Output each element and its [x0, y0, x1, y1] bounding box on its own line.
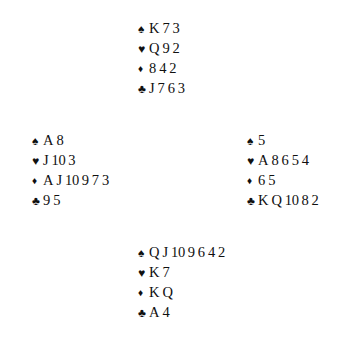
card-rank: 10 [285, 192, 299, 208]
club-icon: ♣ [247, 191, 258, 211]
card-rank: 5 [53, 192, 61, 208]
card-list-heart: J103 [43, 150, 76, 170]
spade-icon: ♠ [138, 19, 149, 39]
card-rank: 9 [82, 172, 90, 188]
card-rank: 7 [92, 172, 100, 188]
diamond-icon: ♦ [138, 283, 149, 303]
card-rank: 7 [162, 264, 170, 280]
card-rank: 9 [162, 40, 170, 56]
card-list-spade: A8 [43, 130, 64, 150]
card-list-diamond: 842 [149, 58, 177, 78]
card-rank: 10 [65, 172, 79, 188]
hand-south: ♠QJ109642♥K7♦KQ♣A4 [138, 242, 226, 322]
card-list-club: KQ1082 [258, 190, 319, 210]
card-rank: 2 [218, 244, 226, 260]
card-rank: 4 [302, 152, 310, 168]
card-list-diamond: 65 [258, 170, 276, 190]
card-rank: 3 [68, 152, 76, 168]
card-rank: 7 [162, 20, 170, 36]
club-icon: ♣ [138, 303, 149, 323]
card-rank: 6 [282, 152, 290, 168]
card-rank: 8 [301, 192, 309, 208]
card-rank: Q [162, 284, 173, 300]
card-list-heart: A8654 [258, 150, 309, 170]
suit-row-club: ♣A4 [138, 302, 226, 322]
heart-icon: ♥ [138, 39, 149, 59]
suit-row-heart: ♥A8654 [247, 150, 319, 170]
card-rank: 2 [169, 60, 177, 76]
card-rank: 4 [162, 304, 170, 320]
card-rank: 5 [268, 172, 276, 188]
card-rank: 6 [198, 244, 206, 260]
spade-icon: ♠ [247, 131, 258, 151]
card-list-diamond: KQ [149, 282, 173, 302]
card-rank: 8 [271, 152, 279, 168]
diamond-icon: ♦ [247, 171, 258, 191]
card-rank: 5 [258, 132, 266, 148]
suit-row-diamond: ♦842 [138, 58, 185, 78]
card-rank: A [43, 172, 54, 188]
card-rank: 8 [56, 132, 64, 148]
card-rank: Q [271, 192, 282, 208]
card-rank: 2 [312, 192, 320, 208]
card-rank: A [258, 152, 269, 168]
card-list-club: A4 [149, 302, 170, 322]
card-rank: 6 [168, 80, 176, 96]
suit-row-spade: ♠5 [247, 130, 319, 150]
suit-row-spade: ♠A8 [32, 130, 110, 150]
heart-icon: ♥ [32, 151, 43, 171]
suit-row-club: ♣J763 [138, 78, 185, 98]
suit-row-heart: ♥K7 [138, 262, 226, 282]
card-rank: 4 [208, 244, 216, 260]
card-list-heart: Q92 [149, 38, 180, 58]
card-rank: 10 [171, 244, 185, 260]
suit-row-spade: ♠K73 [138, 18, 185, 38]
diamond-icon: ♦ [138, 59, 149, 79]
card-list-club: J763 [149, 78, 185, 98]
card-rank: Q [149, 244, 160, 260]
hand-west: ♠A8♥J103♦AJ10973♣95 [32, 130, 110, 210]
card-rank: 8 [149, 60, 157, 76]
diamond-icon: ♦ [32, 171, 43, 191]
card-rank: K [149, 20, 160, 36]
card-rank: K [149, 284, 160, 300]
suit-row-heart: ♥J103 [32, 150, 110, 170]
card-rank: A [149, 304, 160, 320]
card-rank: A [43, 132, 54, 148]
card-rank: J [149, 80, 155, 96]
suit-row-club: ♣95 [32, 190, 110, 210]
heart-icon: ♥ [138, 263, 149, 283]
card-rank: 3 [178, 80, 186, 96]
card-rank: 4 [159, 60, 167, 76]
card-rank: J [43, 152, 49, 168]
bridge-deal-diagram: ♠K73♥Q92♦842♣J763 ♠A8♥J103♦AJ10973♣95 ♠5… [0, 0, 346, 337]
hand-east: ♠5♥A8654♦65♣KQ1082 [247, 130, 319, 210]
card-list-diamond: AJ10973 [43, 170, 110, 190]
card-rank: 3 [173, 20, 181, 36]
card-rank: J [56, 172, 62, 188]
card-list-spade: 5 [258, 130, 266, 150]
card-rank: 10 [52, 152, 66, 168]
club-icon: ♣ [32, 191, 43, 211]
card-rank: K [149, 264, 160, 280]
suit-row-diamond: ♦AJ10973 [32, 170, 110, 190]
card-rank: 7 [158, 80, 166, 96]
card-rank: 5 [292, 152, 300, 168]
card-rank: Q [149, 40, 160, 56]
card-list-spade: K73 [149, 18, 180, 38]
club-icon: ♣ [138, 79, 149, 99]
card-list-heart: K7 [149, 262, 170, 282]
card-rank: 3 [102, 172, 110, 188]
card-rank: K [258, 192, 269, 208]
card-rank: J [162, 244, 168, 260]
card-list-spade: QJ109642 [149, 242, 226, 262]
spade-icon: ♠ [32, 131, 43, 151]
spade-icon: ♠ [138, 243, 149, 263]
suit-row-spade: ♠QJ109642 [138, 242, 226, 262]
card-rank: 9 [43, 192, 51, 208]
suit-row-heart: ♥Q92 [138, 38, 185, 58]
card-rank: 6 [258, 172, 266, 188]
card-rank: 2 [173, 40, 181, 56]
suit-row-club: ♣KQ1082 [247, 190, 319, 210]
card-list-club: 95 [43, 190, 61, 210]
